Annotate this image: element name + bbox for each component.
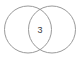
venn-diagram-canvas: 3 xyxy=(0,0,80,59)
venn-intersection-label: 3 xyxy=(37,25,42,35)
venn-diagram: 3 xyxy=(0,0,80,59)
